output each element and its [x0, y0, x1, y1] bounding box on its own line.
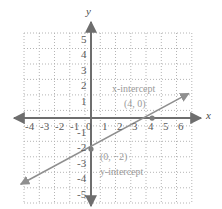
coordinate-graph: -4 -3 -2 -1 0 1 2 3 4 5 6 5 4 3 2 1 -1 -… [0, 0, 222, 209]
y-tick-neg3: -3 [77, 158, 86, 169]
x-axis-label: x [206, 110, 211, 121]
x-tick-5: 5 [163, 121, 169, 132]
y-tick-neg1: -1 [77, 127, 86, 138]
x-tick-neg4: -4 [25, 121, 34, 132]
x-tick-4: 4 [148, 121, 154, 132]
y-tick-4: 4 [81, 49, 87, 60]
x-tick-1: 1 [102, 121, 108, 132]
x-tick-3: 3 [132, 121, 138, 132]
x-tick-2: 2 [117, 121, 123, 132]
x-tick-neg2: -2 [55, 121, 64, 132]
y-tick-2: 2 [81, 80, 87, 91]
y-tick-1: 1 [81, 96, 87, 107]
y-tick-neg4: -4 [77, 173, 86, 184]
x-tick-6: 6 [178, 121, 184, 132]
x-intercept-coords: (4, 0) [124, 99, 146, 109]
y-tick-5: 5 [81, 34, 87, 45]
y-intercept-label: y-intercept [100, 167, 143, 177]
y-intercept-coords: (0, −2) [100, 152, 127, 162]
plot-area [0, 0, 222, 209]
x-tick-neg3: -3 [40, 121, 49, 132]
x-tick-0: 0 [86, 121, 92, 132]
y-tick-neg2: -2 [77, 142, 86, 153]
y-tick-3: 3 [81, 65, 87, 76]
y-intercept-point [88, 146, 93, 151]
y-axis-label: y [86, 6, 91, 17]
x-intercept-label: x-intercept [112, 84, 155, 94]
y-tick-neg5: -5 [77, 189, 86, 200]
